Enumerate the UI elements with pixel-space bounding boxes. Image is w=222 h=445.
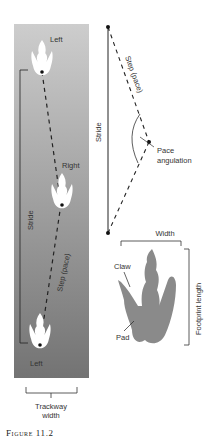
label-width: width (41, 411, 60, 420)
label-right: Right (62, 161, 80, 170)
angle-arc (132, 114, 140, 163)
label-pace: Pace (157, 146, 174, 155)
figure-caption: Figure 11.2 (6, 428, 54, 438)
trackway-panel: Left Right Left Stride Step (pace) (14, 24, 89, 378)
label-claw: Claw (114, 262, 131, 271)
label-step-diagram: Step (pace) (123, 55, 145, 95)
label-width-footprint: Width (155, 229, 174, 238)
label-footprint-length: Footprint length (194, 283, 203, 335)
label-trackway: Trackway (35, 402, 67, 411)
label-stride: Stride (26, 210, 35, 230)
label-angulation: angulation (157, 156, 192, 165)
label-left-bottom: Left (30, 359, 43, 368)
label-pad: Pad (116, 333, 129, 342)
pace-angulation-diagram: Stride Step (pace) Pace angulation (94, 25, 192, 235)
footprint-detail-diagram: Width Footprint length Claw Pad (114, 229, 203, 345)
trackway-width-bracket (26, 387, 77, 398)
label-left-top: Left (50, 35, 63, 44)
trackway-figure: Left Right Left Stride Step (pace) Track… (0, 0, 222, 445)
label-stride-diagram: Stride (94, 122, 103, 142)
